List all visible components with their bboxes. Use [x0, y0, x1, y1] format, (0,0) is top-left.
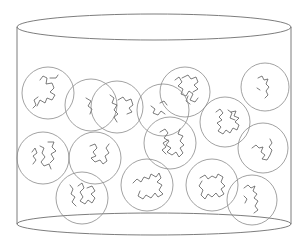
polymer-chain-path	[257, 76, 269, 98]
polymer-chain-path	[90, 144, 109, 164]
polymer-coil	[241, 63, 289, 111]
coil-boundary-circle	[144, 117, 196, 169]
polymer-chain-path	[199, 174, 225, 199]
polymer-coil	[200, 97, 250, 147]
cylinder-bottom-rim	[17, 213, 291, 235]
coil-boundary-circle	[69, 132, 121, 184]
coil-boundary-circle	[241, 63, 289, 111]
polymer-chain-path	[216, 109, 239, 134]
polymer-coil	[144, 117, 196, 169]
coil-boundary-circle	[137, 84, 189, 136]
polymer-coil	[238, 123, 288, 173]
polymer-chain-path	[160, 129, 184, 157]
polymer-chain-path	[252, 139, 272, 160]
polymer-coil	[69, 132, 121, 184]
polymer-coil	[17, 132, 69, 184]
coil-boundary-circle	[121, 159, 173, 211]
diagram-canvas	[0, 0, 306, 248]
polymer-coil	[56, 172, 108, 224]
coil-boundary-circle	[160, 67, 210, 117]
coil-boundary-circle	[227, 175, 277, 225]
polymer-coil	[22, 67, 74, 119]
coil-boundary-circle	[17, 132, 69, 184]
coil-boundary-circle	[186, 159, 238, 211]
polymer-coils-in-cylinder-diagram	[0, 0, 306, 248]
polymer-chain-path	[151, 101, 167, 115]
polymer-chain-path	[244, 185, 258, 213]
polymer-coil	[160, 67, 210, 117]
cylinder-top-rim	[17, 14, 291, 40]
coil-boundary-circle	[22, 67, 74, 119]
polymer-coils-group	[17, 63, 289, 225]
polymer-chain-path	[133, 173, 163, 199]
polymer-chain-path	[33, 75, 58, 108]
polymer-coil	[121, 159, 173, 211]
polymer-chain-path	[32, 142, 56, 169]
coil-boundary-circle	[200, 97, 250, 147]
polymer-coil	[137, 84, 189, 136]
polymer-chain-path	[70, 183, 95, 206]
polymer-coil	[186, 159, 238, 211]
polymer-coil	[227, 175, 277, 225]
